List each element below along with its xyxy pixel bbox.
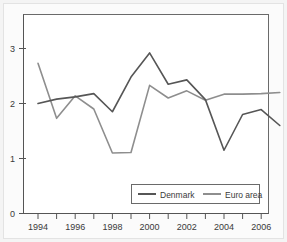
- legend-label-euro-area: Euro area: [225, 190, 263, 200]
- chart-legend[interactable]: Denmark Euro area: [132, 185, 263, 204]
- y-tick-label-2: 2: [10, 99, 15, 109]
- x-axis-ticks: [38, 214, 261, 220]
- y-tick-label-1: 1: [10, 154, 15, 164]
- x-tick-label-1994: 1994: [28, 222, 48, 232]
- x-tick-label-2002: 2002: [177, 222, 197, 232]
- x-tick-label-2006: 2006: [251, 222, 271, 232]
- line-chart-plot: 3 2 1 0 1994: [4, 4, 285, 240]
- x-tick-label-2000: 2000: [140, 222, 160, 232]
- y-tick-label-3: 3: [10, 44, 15, 54]
- chart-figure: 3 2 1 0 1994: [0, 0, 287, 242]
- x-tick-label-1996: 1996: [65, 222, 85, 232]
- x-tick-label-2004: 2004: [214, 222, 234, 232]
- x-tick-label-1998: 1998: [102, 222, 122, 232]
- y-tick-label-0: 0: [10, 209, 15, 219]
- legend-label-denmark: Denmark: [160, 190, 195, 200]
- chart-canvas: 3 2 1 0 1994: [3, 3, 284, 239]
